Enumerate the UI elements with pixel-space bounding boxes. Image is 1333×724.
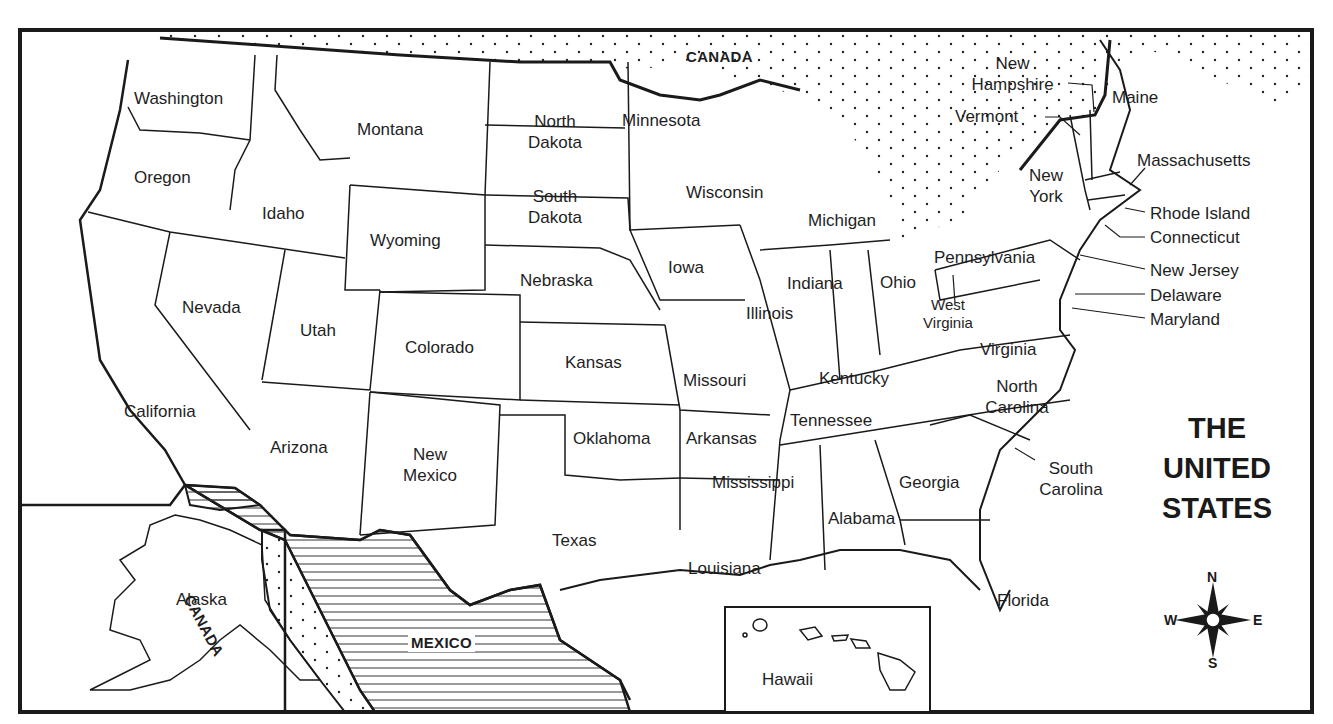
label-wisconsin: Wisconsin [686, 182, 763, 203]
label-new-york: NewYork [1016, 165, 1076, 207]
label-mexico: MEXICO [408, 634, 475, 652]
label-delaware: Delaware [1150, 285, 1222, 306]
label-west-virginia: WestVirginia [918, 296, 978, 332]
label-alaska: Alaska [176, 589, 227, 610]
label-massachusetts: Massachusetts [1137, 150, 1250, 171]
map-title: THE UNITED STATES [1147, 408, 1287, 528]
label-hawaii: Hawaii [762, 669, 813, 690]
label-arizona: Arizona [270, 437, 328, 458]
label-new-jersey: New Jersey [1150, 260, 1239, 281]
label-maryland: Maryland [1150, 309, 1220, 330]
compass-rose-icon [1175, 582, 1251, 658]
label-virginia: Virginia [980, 339, 1036, 360]
label-alabama: Alabama [828, 508, 895, 529]
compass-east-label: E [1253, 612, 1262, 628]
label-rhode-island: Rhode Island [1150, 203, 1250, 224]
label-maine: Maine [1112, 87, 1158, 108]
label-louisiana: Louisiana [688, 558, 761, 579]
label-wyoming: Wyoming [370, 230, 441, 251]
label-vermont: Vermont [955, 106, 1018, 127]
label-kansas: Kansas [565, 352, 622, 373]
label-oklahoma: Oklahoma [573, 428, 650, 449]
label-california: California [124, 401, 196, 422]
label-utah: Utah [300, 320, 336, 341]
label-florida: Florida [997, 590, 1049, 611]
compass-west-label: W [1164, 612, 1177, 628]
label-north-carolina: NorthCarolina [972, 376, 1062, 418]
label-missouri: Missouri [683, 370, 746, 391]
label-south-carolina: SouthCarolina [1026, 458, 1116, 500]
label-tennessee: Tennessee [790, 410, 872, 431]
label-texas: Texas [552, 530, 596, 551]
label-pennsylvania: Pennsylvania [934, 247, 1035, 268]
label-connecticut: Connecticut [1150, 227, 1240, 248]
label-arkansas: Arkansas [686, 428, 757, 449]
label-idaho: Idaho [262, 203, 305, 224]
label-michigan: Michigan [808, 210, 876, 231]
label-oregon: Oregon [134, 167, 191, 188]
label-iowa: Iowa [668, 257, 704, 278]
label-montana: Montana [357, 119, 423, 140]
label-mississippi: Mississippi [712, 472, 794, 493]
label-minnesota: Minnesota [622, 110, 700, 131]
compass-south-label: S [1208, 655, 1217, 671]
label-south-dakota: SouthDakota [515, 186, 595, 228]
label-kentucky: Kentucky [819, 368, 889, 389]
label-canada-top: CANADA [686, 48, 753, 66]
label-indiana: Indiana [787, 273, 843, 294]
label-new-mexico: NewMexico [390, 444, 470, 486]
compass-north-label: N [1207, 569, 1217, 585]
label-nevada: Nevada [182, 297, 241, 318]
label-georgia: Georgia [899, 472, 959, 493]
label-illinois: Illinois [746, 303, 793, 324]
label-north-dakota: NorthDakota [515, 111, 595, 153]
label-washington: Washington [134, 88, 223, 109]
mexico-region [185, 485, 630, 712]
label-colorado: Colorado [405, 337, 474, 358]
label-new-hampshire: NewHampshire [955, 53, 1070, 95]
label-nebraska: Nebraska [520, 270, 593, 291]
label-ohio: Ohio [880, 272, 916, 293]
